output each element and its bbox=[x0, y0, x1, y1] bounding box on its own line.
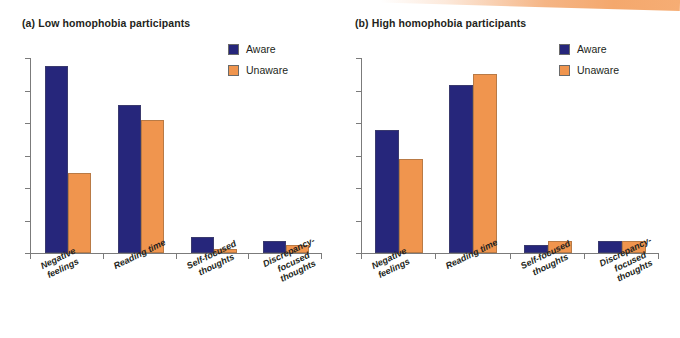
bar-aware[interactable] bbox=[45, 66, 68, 253]
x-tick bbox=[361, 254, 362, 259]
y-tick bbox=[25, 58, 30, 59]
x-tick bbox=[435, 254, 436, 259]
x-category-labels-a: Negative feelingsReading timeSelf-focuse… bbox=[31, 260, 323, 338]
bar-group bbox=[31, 58, 104, 253]
bar-group bbox=[177, 58, 250, 253]
y-tick bbox=[25, 123, 30, 124]
x-tick bbox=[176, 254, 177, 259]
legend-label-aware: Aware bbox=[246, 43, 276, 55]
legend-swatch-aware bbox=[559, 44, 570, 55]
bar-aware[interactable] bbox=[375, 130, 399, 253]
y-tick bbox=[356, 91, 361, 92]
panel-b-title: (b) High homophobia participants bbox=[355, 17, 526, 29]
bar-unaware[interactable] bbox=[473, 74, 497, 253]
legend-item-aware: Aware bbox=[228, 40, 288, 58]
y-tick bbox=[356, 58, 361, 59]
bar-group bbox=[436, 58, 510, 253]
legend-swatch-aware bbox=[228, 44, 239, 55]
legend-label-aware: Aware bbox=[577, 43, 607, 55]
bar-aware[interactable] bbox=[118, 105, 141, 253]
chart-panel-b: (b) High homophobia participants Aware U… bbox=[337, 0, 674, 338]
bar-unaware[interactable] bbox=[399, 159, 423, 253]
bar-aware[interactable] bbox=[449, 85, 473, 253]
bar-groups-a bbox=[31, 58, 322, 253]
y-tick bbox=[356, 123, 361, 124]
bar-group bbox=[104, 58, 177, 253]
legend-item-aware: Aware bbox=[559, 40, 619, 58]
x-tick bbox=[30, 254, 31, 259]
y-tick bbox=[25, 156, 30, 157]
y-tick bbox=[356, 188, 361, 189]
y-tick bbox=[25, 221, 30, 222]
plot-area-a bbox=[30, 58, 322, 254]
y-tick bbox=[25, 188, 30, 189]
x-tick bbox=[103, 254, 104, 259]
bar-groups-b bbox=[362, 58, 659, 253]
y-tick bbox=[356, 221, 361, 222]
bar-group bbox=[511, 58, 585, 253]
x-tick bbox=[584, 254, 585, 259]
bar-group bbox=[362, 58, 436, 253]
chart-panel-a: (a) Low homophobia participants Aware Un… bbox=[0, 0, 337, 338]
y-tick bbox=[25, 91, 30, 92]
y-tick bbox=[356, 156, 361, 157]
bar-unaware[interactable] bbox=[141, 120, 164, 253]
x-tick bbox=[510, 254, 511, 259]
x-category-labels-b: Negative feelingsReading timeSelf-focuse… bbox=[362, 260, 660, 338]
bar-group bbox=[585, 58, 659, 253]
plot-area-b bbox=[361, 58, 659, 254]
panel-a-title: (a) Low homophobia participants bbox=[22, 17, 190, 29]
bar-unaware[interactable] bbox=[68, 173, 91, 253]
x-tick bbox=[248, 254, 249, 259]
bar-group bbox=[249, 58, 322, 253]
